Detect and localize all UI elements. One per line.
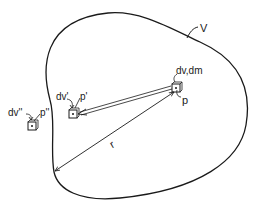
label-dv-dm: dv,dm <box>176 65 203 76</box>
element-p-double-prime: dv'' p'' <box>8 107 49 130</box>
diagram-canvas: V dv,dm p dv' p' dv'' p'' r <box>0 0 254 207</box>
element-p: dv,dm p <box>172 65 203 106</box>
label-dv-double-prime: dv'' <box>8 107 22 118</box>
point-p-double-prime <box>31 125 33 127</box>
label-dv-prime: dv' <box>56 91 69 102</box>
element-p-prime: dv' p' <box>56 91 88 118</box>
force-arrow-p-to-p-prime <box>78 86 172 115</box>
point-p-prime <box>72 113 74 115</box>
distance-r-arrow <box>55 92 174 171</box>
label-p-prime: p' <box>80 91 88 102</box>
label-r: r <box>107 138 116 150</box>
region-v-label: V <box>200 22 208 34</box>
label-p: p <box>182 94 188 106</box>
point-p <box>175 87 177 89</box>
label-p-double-prime: p'' <box>40 107 49 118</box>
